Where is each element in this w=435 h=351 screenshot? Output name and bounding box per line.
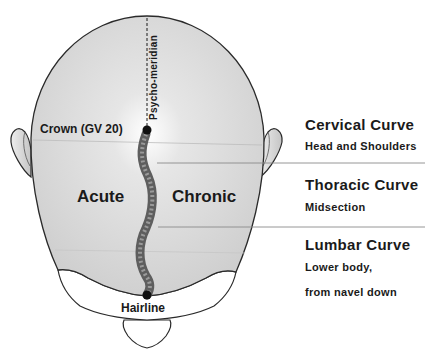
neck-shape [123,320,171,348]
cervical-curve-title: Cervical Curve [305,116,414,133]
left-ear-icon [11,127,32,177]
thoracic-curve-title: Thoracic Curve [305,176,418,193]
lumbar-curve-desc-1: Lower body, [305,261,372,273]
hairline-label: Hairline [121,301,165,315]
thoracic-curve-desc: Midsection [305,201,365,213]
chronic-label: Chronic [172,187,236,207]
head-diagram: Psycho-meridian Crown (GV 20) Hairline A… [0,0,435,351]
cervical-curve-desc: Head and Shoulders [305,140,417,152]
psycho-meridian-label: Psycho-meridian [148,35,159,120]
crown-label: Crown (GV 20) [40,122,123,136]
hairline-point-icon [143,291,152,300]
acute-label: Acute [77,187,124,207]
lumbar-curve-desc-2: from navel down [305,286,397,298]
crown-point-icon [143,126,152,135]
lumbar-curve-title: Lumbar Curve [305,236,410,253]
